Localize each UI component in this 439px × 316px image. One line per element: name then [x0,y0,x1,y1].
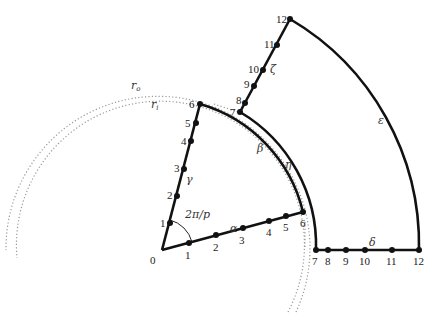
edge-gamma [162,104,200,250]
wedge-angle-arc [170,220,192,242]
arc-epsilon [290,19,419,250]
zeta-node-label: 11 [264,38,275,50]
gamma-node-label: 6 [189,98,195,110]
delta-node-label: 7 [312,255,318,267]
gamma-node-label: 2 [167,189,173,201]
eta-label: η [285,158,292,171]
diagram-canvas: ro ri 2π/p 0 1 2 3 4 [0,0,439,316]
zeta-label: ζ [270,63,277,76]
alpha-node-label: 2 [213,241,219,253]
zeta-node-label: 8 [236,94,242,106]
alpha-node-label: 6 [300,217,306,229]
epsilon-label: ε [378,114,384,127]
delta-node-label: 8 [325,255,331,267]
delta-node-label: 12 [413,255,424,267]
alpha-node-label: 1 [185,249,191,261]
gamma-node-label: 1 [160,217,166,229]
inner-wedge: 2π/p 0 1 2 3 4 5 6 1 2 3 4 5 [150,98,306,266]
wedge-angle-label: 2π/p [184,208,210,221]
sector-diagram: ro ri 2π/p 0 1 2 3 4 [0,0,439,316]
delta-label: δ [369,236,376,249]
alpha-label: α [230,222,238,235]
zeta-node-label: 9 [244,78,250,90]
outer-radius-label: ro [131,79,140,93]
alpha-node-label: 4 [266,226,272,238]
gamma-node-label: 4 [181,135,187,147]
zeta-node-label: 10 [248,63,260,75]
beta-label: β [256,142,263,155]
gamma-node-label: 5 [185,117,191,129]
alpha-node-label: 3 [239,234,245,246]
delta-node-label: 11 [386,255,397,267]
gamma-node-label: 3 [174,162,180,174]
zeta-node-label: 7 [230,106,236,118]
delta-node-label: 10 [359,255,371,267]
inner-radius-label: ri [151,98,159,112]
delta-node-label: 9 [343,255,349,267]
zeta-node-label: 12 [276,13,287,25]
apex-label: 0 [150,254,156,266]
gamma-label: γ [186,173,193,186]
alpha-node-label: 5 [283,221,289,233]
